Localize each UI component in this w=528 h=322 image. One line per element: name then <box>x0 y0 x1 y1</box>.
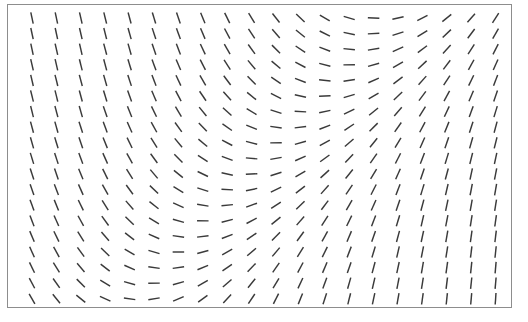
field-tick <box>104 12 107 23</box>
field-tick <box>54 216 59 227</box>
field-tick <box>103 169 108 179</box>
field-tick <box>470 200 472 211</box>
field-tick <box>492 13 498 23</box>
field-tick <box>247 218 257 223</box>
field-tick <box>55 137 58 148</box>
field-tick <box>469 75 474 85</box>
field-tick <box>78 216 84 226</box>
field-tick <box>471 246 472 257</box>
field-tick <box>395 122 402 131</box>
field-tick <box>270 157 281 159</box>
field-tick <box>31 44 33 55</box>
field-tick <box>421 231 423 242</box>
field-tick <box>446 246 448 257</box>
field-tick <box>127 169 133 179</box>
field-tick <box>446 277 447 288</box>
direction-field-svg <box>8 5 513 309</box>
field-tick <box>397 246 400 257</box>
field-tick <box>344 32 355 34</box>
field-tick <box>101 248 109 256</box>
field-tick <box>396 169 401 180</box>
field-tick <box>174 170 183 177</box>
field-tick <box>445 137 449 148</box>
field-tick <box>148 298 159 300</box>
field-tick <box>222 124 231 131</box>
field-tick <box>199 123 207 131</box>
field-tick <box>443 30 451 38</box>
field-tick <box>421 169 425 180</box>
field-tick <box>347 231 352 242</box>
field-tick <box>248 294 254 304</box>
field-tick <box>127 122 132 133</box>
field-tick <box>148 267 159 269</box>
field-tick <box>222 173 233 175</box>
field-tick <box>150 170 157 179</box>
field-tick <box>468 60 474 70</box>
field-tick <box>495 184 497 195</box>
field-tick <box>295 62 305 67</box>
field-tick <box>372 293 374 304</box>
field-tick <box>468 29 475 38</box>
field-tick <box>101 232 109 241</box>
field-tick <box>31 106 34 117</box>
field-tick <box>221 189 232 190</box>
field-tick <box>174 187 184 193</box>
field-tick <box>246 141 257 144</box>
field-tick <box>79 59 82 70</box>
field-tick <box>395 138 401 148</box>
field-tick <box>55 75 58 86</box>
field-tick <box>470 168 472 179</box>
field-tick <box>55 169 59 180</box>
field-tick <box>347 216 352 226</box>
field-tick <box>446 200 448 211</box>
field-tick <box>295 78 306 82</box>
field-tick <box>176 75 181 85</box>
field-tick <box>295 127 306 128</box>
field-tick <box>246 174 257 175</box>
field-tick <box>272 45 280 53</box>
field-tick <box>396 200 400 211</box>
field-tick <box>368 78 379 83</box>
field-tick <box>124 298 135 300</box>
field-tick <box>151 154 158 163</box>
field-tick <box>347 247 351 258</box>
field-tick <box>175 138 182 147</box>
field-tick <box>223 92 231 101</box>
field-tick <box>224 76 231 85</box>
field-tick <box>128 91 132 102</box>
field-tick <box>418 31 428 37</box>
field-tick <box>198 155 208 161</box>
field-tick <box>127 153 133 163</box>
field-tick <box>149 234 160 239</box>
field-tick <box>29 262 34 272</box>
field-tick <box>396 215 399 226</box>
field-tick <box>394 92 402 100</box>
field-tick <box>149 202 158 209</box>
field-tick <box>442 14 451 21</box>
field-tick <box>201 13 205 24</box>
field-tick <box>345 139 354 147</box>
field-tick <box>125 217 133 225</box>
field-tick <box>320 140 330 146</box>
field-tick <box>128 59 131 70</box>
field-tick <box>493 60 498 71</box>
field-tick <box>471 293 472 304</box>
field-tick <box>222 234 233 238</box>
field-tick <box>446 293 447 304</box>
field-tick <box>445 168 448 179</box>
field-tick <box>467 14 475 23</box>
field-tick <box>103 137 107 148</box>
field-tick <box>54 247 60 257</box>
field-tick <box>370 138 377 147</box>
field-tick <box>55 28 57 39</box>
field-tick <box>152 44 156 55</box>
field-tick <box>55 153 59 164</box>
field-tick <box>246 203 257 207</box>
field-tick <box>295 141 306 144</box>
field-tick <box>152 13 155 24</box>
field-tick <box>271 93 281 98</box>
field-tick <box>222 219 233 222</box>
field-tick <box>344 124 354 130</box>
field-tick <box>30 169 34 180</box>
field-tick <box>152 59 156 70</box>
